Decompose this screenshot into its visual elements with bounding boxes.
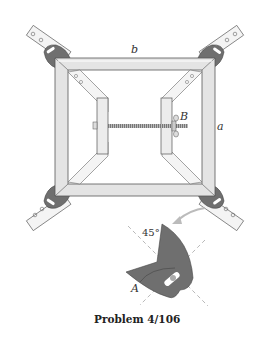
label-A: A [130,282,139,295]
diagram-canvas: b a B 45° A Problem 4/106 [0,0,267,338]
label-a: a [217,120,224,133]
detail-arrow [172,208,205,224]
label-B: B [179,110,188,123]
label-b: b [131,43,138,56]
label-45-deg: 45° [142,227,160,238]
left-plate [97,98,108,154]
figure-caption: Problem 4/106 [94,313,180,325]
rod-end-cap [93,122,97,129]
